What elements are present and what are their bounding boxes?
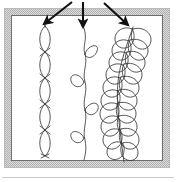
illustration-figure: Framed illustration panel showing three … <box>0 0 176 182</box>
stitch-pattern-illustration <box>0 0 176 182</box>
illustration-frame <box>5 9 170 168</box>
frame-inner-panel <box>12 16 163 161</box>
